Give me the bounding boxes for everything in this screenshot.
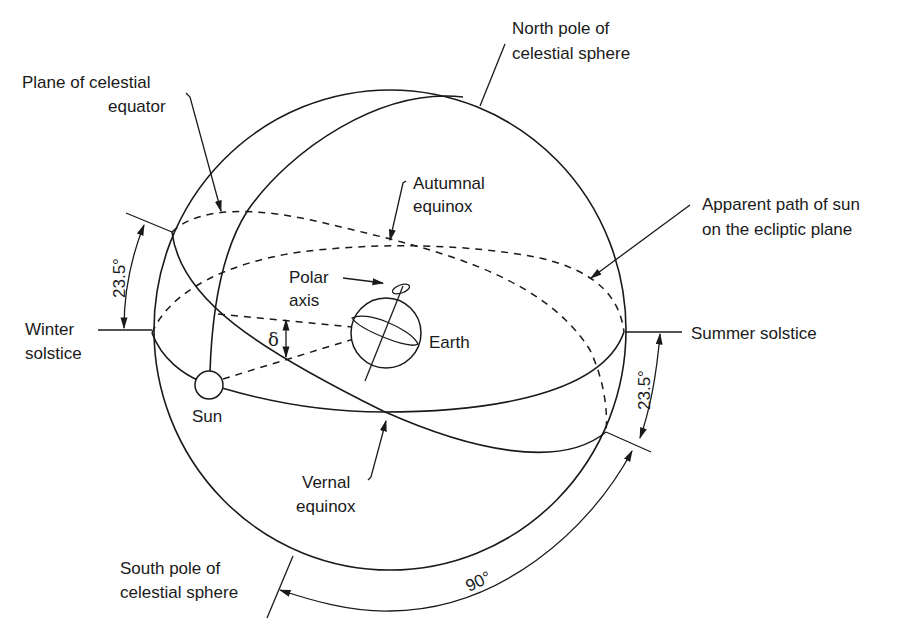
autumnal-label-2: equinox xyxy=(413,197,473,216)
vernal-label-2: equinox xyxy=(296,497,356,516)
winter-solstice-label: Winter xyxy=(25,320,74,339)
left-angle-tick xyxy=(126,213,172,232)
right-angle-label: 23.5° xyxy=(635,370,654,410)
polar-axis-label: Polar xyxy=(289,268,329,287)
south-pole-label-2: celestial sphere xyxy=(120,583,238,602)
right-angle-tick xyxy=(606,432,651,452)
bottom-angle-label: 90° xyxy=(463,568,494,596)
rotation-icon xyxy=(391,282,411,296)
vernal-arrow xyxy=(368,421,386,480)
plane-equator-arrow xyxy=(186,93,221,211)
north-pole-label: North pole of xyxy=(512,19,610,38)
autumnal-arrow xyxy=(390,181,406,240)
vernal-label: Vernal xyxy=(302,473,350,492)
polar-axis-arrow xyxy=(343,278,383,283)
polar-axis-label-2: axis xyxy=(289,291,319,310)
sun-label: Sun xyxy=(192,407,222,426)
north-pole-leader xyxy=(480,44,505,106)
apparent-path-label: Apparent path of sun xyxy=(702,195,860,214)
sun-icon xyxy=(195,371,223,399)
left-angle-label: 23.5° xyxy=(110,258,129,298)
south-pole-leader xyxy=(267,556,293,618)
plane-equator-label-2: equator xyxy=(108,97,166,116)
autumnal-label: Autumnal xyxy=(413,174,485,193)
winter-solstice-label-2: solstice xyxy=(25,344,82,363)
celestial-sphere-diagram: North pole of celestial sphere Plane of … xyxy=(0,0,905,635)
plane-equator-label: Plane of celestial xyxy=(22,73,151,92)
earth-icon xyxy=(351,298,421,368)
delta-label: δ xyxy=(268,329,279,350)
apparent-path-label-2: on the ecliptic plane xyxy=(702,220,852,239)
south-pole-label: South pole of xyxy=(120,559,220,578)
apparent-path-arrow xyxy=(591,205,690,278)
earth-label: Earth xyxy=(429,333,470,352)
summer-solstice-label: Summer solstice xyxy=(691,324,817,343)
north-pole-label-2: celestial sphere xyxy=(512,44,630,63)
